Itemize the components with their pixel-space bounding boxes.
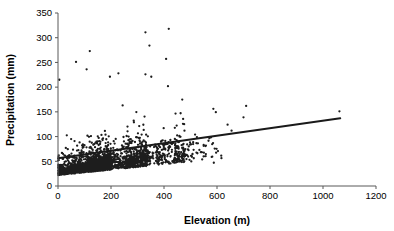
chart-canvas: 050100150200250300350 020040060080010001… bbox=[0, 0, 394, 231]
scatter-points-layer bbox=[57, 28, 341, 177]
y-tick-label: 350 bbox=[36, 7, 52, 18]
y-tick-label: 150 bbox=[36, 106, 52, 117]
y-tick-label: 250 bbox=[36, 57, 52, 68]
y-tick-label: 100 bbox=[36, 131, 52, 142]
x-tick-label: 1200 bbox=[365, 190, 386, 201]
y-tick-label: 200 bbox=[36, 81, 52, 92]
scatter-points bbox=[57, 28, 341, 177]
x-tick-label: 400 bbox=[156, 190, 172, 201]
y-tick-label: 300 bbox=[36, 32, 52, 43]
x-tick-label: 200 bbox=[103, 190, 119, 201]
x-tick-label: 600 bbox=[209, 190, 225, 201]
x-axis-title: Elevation (m) bbox=[184, 214, 250, 226]
x-tick-label: 800 bbox=[262, 190, 278, 201]
y-axis-tick-labels: 050100150200250300350 bbox=[36, 7, 52, 191]
precipitation-elevation-scatter-figure: 050100150200250300350 020040060080010001… bbox=[0, 0, 394, 231]
y-tick-label: 50 bbox=[41, 156, 52, 167]
trend-line bbox=[58, 118, 340, 158]
y-tick-label: 0 bbox=[47, 180, 52, 191]
x-axis-tick-labels: 020040060080010001200 bbox=[55, 190, 386, 201]
y-axis-title: Precipitation (mm) bbox=[4, 54, 16, 146]
x-tick-label: 0 bbox=[55, 190, 60, 201]
x-tick-label: 1000 bbox=[312, 190, 333, 201]
